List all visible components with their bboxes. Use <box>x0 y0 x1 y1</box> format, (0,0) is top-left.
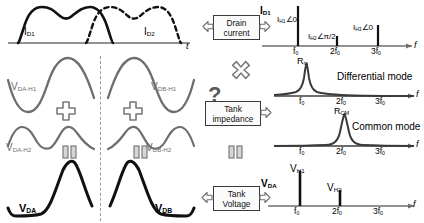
differential-mode-title: Differential mode <box>337 72 412 82</box>
vda-label: VDA <box>19 203 36 215</box>
current-spectrum-tick-f0: f0 <box>293 47 298 56</box>
current-spectrum-axis-label: f <box>414 41 417 50</box>
differential-axis-label: f <box>416 90 419 99</box>
differential-tick-2f0: 2f0 <box>336 97 346 106</box>
equals-symbol-right <box>133 145 148 159</box>
tank-impedance-box-line1: Tank <box>224 104 242 114</box>
vdb-waveform <box>106 158 198 220</box>
time-axis-label: t <box>186 42 189 51</box>
plus-symbol-left <box>56 101 76 121</box>
multiply-symbol <box>231 60 251 80</box>
ih3-phasor-label: IH3∠0 <box>353 24 373 33</box>
drain-current-box-line2: current <box>223 28 249 38</box>
drain-current-waveform-plot <box>8 2 198 50</box>
vh1-label: VH1 <box>290 164 305 174</box>
voltage-tick-3f0: 3f0 <box>373 207 383 216</box>
equals-symbol-middle <box>228 145 243 159</box>
differential-tick-3f0: 3f0 <box>375 97 385 106</box>
tank-voltage-box[interactable]: Tank Voltage <box>213 186 260 211</box>
vh2-label: VH2 <box>327 183 342 193</box>
drain-current-box[interactable]: Drain current <box>213 15 260 40</box>
tank-impedance-box[interactable]: Tank impedance <box>205 101 261 126</box>
current-spectrum-plot <box>262 4 420 52</box>
tank-impedance-box-line2: impedance <box>213 114 254 124</box>
common-tick-3f0: 3f0 <box>375 147 385 156</box>
ih1-phasor-label: IH1∠0 <box>277 16 297 25</box>
vdb-h2-label: VDB-H2 <box>146 143 171 153</box>
vda-h1-label: VDA-H1 <box>11 82 36 92</box>
vda-h2-label: VDA-H2 <box>6 143 31 153</box>
rcm-label: RCM <box>334 107 349 117</box>
common-tick-f0: f0 <box>299 147 304 156</box>
drain-current-in-arrow-icon <box>202 20 214 33</box>
voltage-tick-f0: f0 <box>294 207 299 216</box>
figure-canvas: ID1 ID2 t VDA-H1 VDB-H1 <box>0 0 424 223</box>
tank-impedance-out-arrow-icon <box>259 106 272 119</box>
ab-divider <box>100 56 101 221</box>
vdb-label: VDB <box>155 203 172 215</box>
common-axis-label: f <box>416 140 419 149</box>
plus-symbol-right <box>123 101 143 121</box>
equals-symbol-left <box>62 145 77 159</box>
voltage-axis-label: f <box>413 200 416 209</box>
common-mode-plot <box>274 112 422 152</box>
id2-curve <box>86 7 181 43</box>
id1-label: ID1 <box>24 27 35 37</box>
current-spectrum-tick-2f0: 2f0 <box>330 47 340 56</box>
tank-voltage-box-line1: Tank <box>228 189 246 199</box>
voltage-spectrum-plot <box>268 168 420 214</box>
differential-tick-f0: f0 <box>299 97 304 106</box>
rin-label: Rin <box>297 57 308 67</box>
drain-current-box-line1: Drain <box>226 18 246 28</box>
common-tick-2f0: 2f0 <box>336 147 346 156</box>
voltage-tick-2f0: 2f0 <box>332 207 342 216</box>
tank-voltage-box-line2: Voltage <box>223 199 251 209</box>
differential-mode-plot <box>274 62 422 102</box>
id2-label: ID2 <box>144 27 155 37</box>
ih2-phasor-label: IH2∠π/2 <box>308 33 336 42</box>
tank-voltage-in-arrow-icon <box>201 191 214 204</box>
current-spectrum-tick-3f0: 3f0 <box>371 47 381 56</box>
common-mode-title: Common mode <box>352 122 420 132</box>
vdb-h1-label: VDB-H1 <box>151 82 176 92</box>
